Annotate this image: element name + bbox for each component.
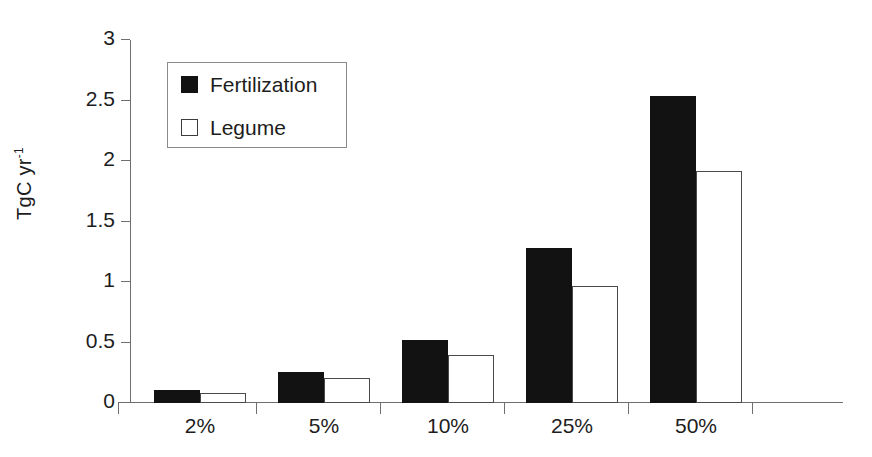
y-tick-label-1: 1: [103, 268, 115, 292]
bar-fertilization-10pct: [402, 340, 448, 403]
x-tick-2: [380, 403, 381, 414]
legend-label-fertilization: Fertilization: [210, 73, 317, 97]
y-axis-line: [130, 40, 131, 403]
bar-chart-figure: TgC yr-1 00.511.522.53 2%5%10%25%50% Fer…: [0, 0, 872, 457]
bar-fertilization-50pct: [650, 96, 696, 403]
y-tick-2.5: 2.5: [121, 100, 130, 101]
y-axis-title-exponent: -1: [12, 147, 26, 158]
x-tick-5: [752, 403, 753, 414]
bar-legume-50pct: [696, 171, 742, 403]
bar-fertilization-25pct: [526, 248, 572, 403]
y-tick-label-0.5: 0.5: [86, 329, 115, 353]
legend: Fertilization Legume: [167, 62, 347, 148]
legend-item-fertilization: Fertilization: [168, 63, 346, 106]
y-tick-1.5: 1.5: [121, 221, 130, 222]
y-tick-3: 3: [121, 39, 130, 40]
y-tick-label-2.5: 2.5: [86, 87, 115, 111]
y-axis-title-base: TgC yr: [13, 158, 35, 220]
bar-legume-2pct: [200, 393, 246, 403]
y-tick-label-1.5: 1.5: [86, 208, 115, 232]
y-tick-label-0: 0: [103, 389, 115, 413]
y-tick-0.5: 0.5: [121, 342, 130, 343]
bar-legume-5pct: [324, 378, 370, 403]
x-axis-label-25pct: 25%: [516, 414, 628, 438]
y-tick-1: 1: [121, 281, 130, 282]
bar-fertilization-2pct: [154, 390, 200, 403]
outlined-square-icon: [181, 119, 198, 136]
x-axis-label-10pct: 10%: [392, 414, 504, 438]
bar-fertilization-5pct: [278, 372, 324, 403]
x-tick-3: [504, 403, 505, 414]
x-tick-1: [256, 403, 257, 414]
legend-label-legume: Legume: [210, 116, 286, 140]
y-tick-0: 0: [121, 402, 139, 403]
x-tick-4: [628, 403, 629, 414]
legend-item-legume: Legume: [168, 106, 346, 149]
y-tick-label-3: 3: [103, 26, 115, 50]
y-axis-title: TgC yr-1: [13, 124, 36, 244]
y-tick-label-2: 2: [103, 147, 115, 171]
x-tick-0: [118, 403, 119, 414]
x-axis-label-5pct: 5%: [268, 414, 380, 438]
x-axis-label-2pct: 2%: [144, 414, 256, 438]
y-tick-2: 2: [121, 160, 130, 161]
x-axis-label-50pct: 50%: [640, 414, 752, 438]
bar-legume-25pct: [572, 286, 618, 403]
filled-square-icon: [181, 76, 198, 93]
bar-legume-10pct: [448, 355, 494, 403]
